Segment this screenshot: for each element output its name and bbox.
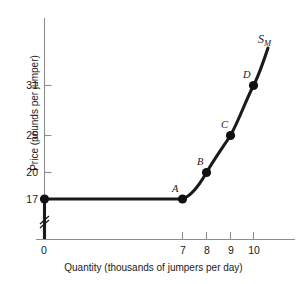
point-label-c: C — [221, 120, 228, 131]
point-c-dot — [226, 131, 235, 140]
point-label-d: D — [243, 70, 251, 81]
x-tick-label-0: 0 — [33, 245, 55, 256]
y-axis-title-wrapper: Price (pounds per jumper) — [24, 38, 42, 188]
point-b-dot — [202, 168, 211, 177]
supply-curve-label-subscript: M — [264, 38, 271, 48]
point-label-b: B — [197, 157, 203, 168]
y-axis-title: Price (pounds per jumper) — [29, 55, 40, 171]
point-d-dot — [249, 81, 258, 90]
supply-curve-figure: 31 25 20 17 0 7 8 9 10 A B C D SM Price … — [0, 0, 307, 284]
x-tick-label-8: 8 — [196, 245, 218, 256]
x-axis-title: Quantity (thousands of jumpers per day) — [0, 262, 307, 273]
x-tick-label-10: 10 — [243, 245, 265, 256]
x-tick-label-7: 7 — [172, 245, 194, 256]
supply-curve-label: SM — [258, 33, 271, 48]
point-label-a: A — [172, 184, 178, 195]
y-tick-label-17: 17 — [8, 194, 38, 205]
point-a-dot — [178, 194, 187, 203]
point-origin-dot — [40, 194, 49, 203]
x-tick-label-9: 9 — [220, 245, 242, 256]
